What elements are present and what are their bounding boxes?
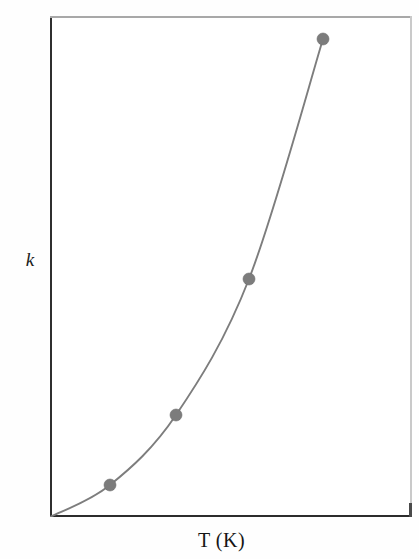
figure-canvas: k T (K) [0,0,419,559]
data-plot-layer [50,16,412,517]
data-marker-group [104,33,329,491]
data-point-4 [317,33,329,45]
data-point-3 [243,273,255,285]
x-axis-label: T (K) [0,530,419,550]
exponential-curve [50,39,323,517]
y-axis-label: k [16,250,44,269]
data-point-2 [170,409,182,421]
data-point-1 [104,479,116,491]
